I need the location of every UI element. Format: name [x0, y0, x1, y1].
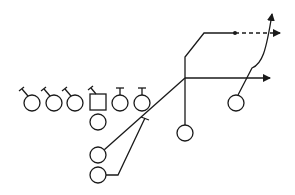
back-1	[90, 147, 106, 163]
lineman-6	[134, 88, 150, 111]
slot-receiver	[177, 125, 193, 141]
back-2	[90, 167, 106, 183]
quarterback	[90, 114, 106, 130]
lineman-3	[62, 87, 83, 111]
lineman-2	[41, 87, 62, 111]
center-square	[88, 86, 106, 110]
back-2-route	[106, 117, 149, 175]
lineman-5	[112, 88, 128, 111]
play-diagram	[0, 0, 295, 195]
lineman-1	[19, 87, 40, 111]
wide-receiver	[228, 95, 244, 111]
wide-receiver-route	[238, 14, 272, 95]
